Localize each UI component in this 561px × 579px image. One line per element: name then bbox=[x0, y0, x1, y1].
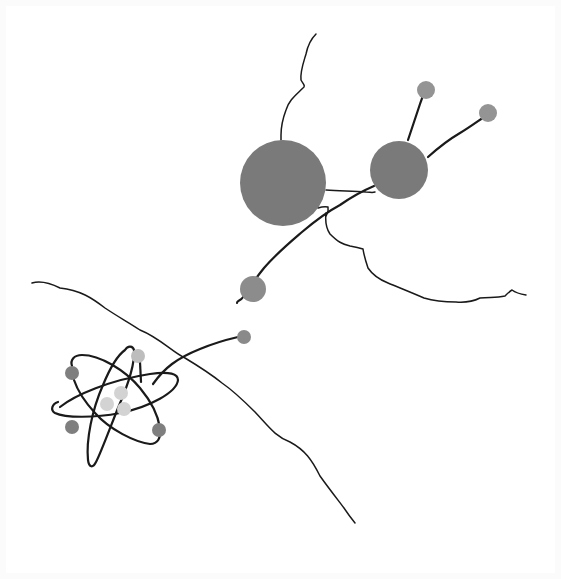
free-particle-small bbox=[237, 330, 251, 344]
atom-molecule-illustration bbox=[0, 0, 561, 579]
long-wavy-line bbox=[32, 282, 355, 523]
electron-bottom-right bbox=[152, 423, 166, 437]
electron-stem bbox=[140, 362, 141, 382]
illustration-canvas: Atom and molecules line illustration Han… bbox=[0, 0, 561, 579]
antenna-line-right bbox=[428, 117, 484, 157]
nucleus-proton-3 bbox=[117, 402, 131, 416]
large-sphere bbox=[240, 140, 326, 226]
antenna-line-left bbox=[408, 92, 424, 140]
right-wavy-line bbox=[326, 213, 526, 302]
atom-connector-line bbox=[153, 337, 238, 384]
orbit-diagonal-down bbox=[71, 355, 160, 444]
medium-sphere bbox=[370, 141, 428, 199]
antenna-particle-left bbox=[417, 81, 435, 99]
sphere-bond-line bbox=[326, 190, 375, 192]
electron-top-right bbox=[131, 349, 145, 363]
nucleus-proton-2 bbox=[100, 397, 114, 411]
nucleus-proton-1 bbox=[114, 386, 128, 400]
electron-bottom-left bbox=[65, 420, 79, 434]
top-wavy-line bbox=[281, 34, 316, 140]
free-particle-medium bbox=[240, 276, 266, 302]
antenna-particle-right bbox=[479, 104, 497, 122]
electron-top-left bbox=[65, 366, 79, 380]
atom-orbits bbox=[52, 347, 178, 467]
